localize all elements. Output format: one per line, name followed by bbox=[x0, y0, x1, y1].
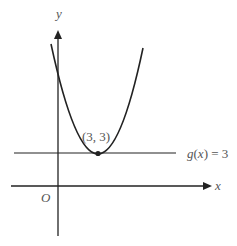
line-label: g(x) = 3 bbox=[187, 146, 228, 161]
vertex-label: (3, 3) bbox=[82, 129, 110, 144]
line-label-eq: = 3 bbox=[208, 146, 228, 161]
vertex-point bbox=[95, 151, 100, 156]
origin-label: O bbox=[41, 190, 51, 205]
graph-canvas: y x O (3, 3) g(x) = 3 bbox=[0, 0, 237, 246]
y-axis-label: y bbox=[54, 6, 62, 21]
x-axis-arrow-icon bbox=[203, 182, 212, 190]
x-axis-label: x bbox=[214, 178, 221, 193]
y-axis-arrow-icon bbox=[54, 30, 62, 39]
